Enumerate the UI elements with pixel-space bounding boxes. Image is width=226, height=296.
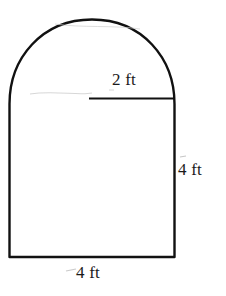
scan-artifact-tick-right bbox=[180, 156, 186, 157]
arch-figure-canvas bbox=[0, 0, 226, 296]
dimension-label-bottom: 4 ft bbox=[76, 264, 100, 281]
dimension-label-top: 2 ft bbox=[112, 71, 136, 88]
dimension-label-right: 4 ft bbox=[178, 161, 202, 178]
scan-artifact-tick-bottom bbox=[66, 269, 76, 271]
arch-outline-path bbox=[10, 20, 175, 258]
figure-root: 2 ft 4 ft 4 ft bbox=[0, 0, 226, 296]
